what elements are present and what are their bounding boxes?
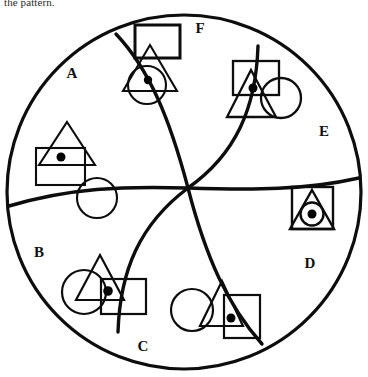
region-label-d: D xyxy=(305,255,316,271)
region-c-dot xyxy=(227,314,236,323)
region-a-dot xyxy=(57,153,66,162)
region-label-c: C xyxy=(138,338,149,354)
region-d-dot xyxy=(308,210,317,219)
region-f-dot xyxy=(144,76,152,84)
region-e-dot xyxy=(249,84,258,93)
region-label-a: A xyxy=(67,65,78,81)
puzzle-figure: A B C D E F xyxy=(0,0,368,377)
region-b-dot xyxy=(103,286,113,296)
region-label-b: B xyxy=(34,244,44,260)
region-label-f: F xyxy=(195,20,204,36)
region-label-e: E xyxy=(319,123,329,139)
